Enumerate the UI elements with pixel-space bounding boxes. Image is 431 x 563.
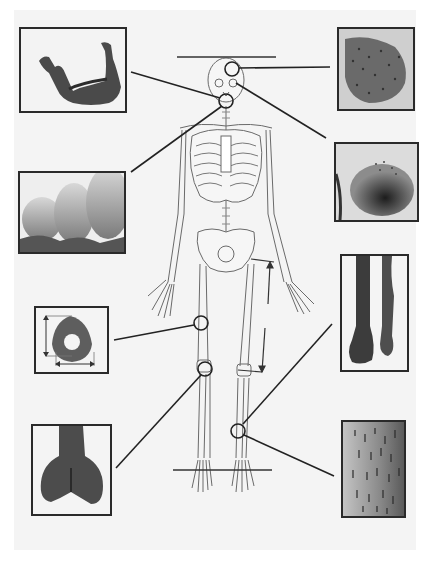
skeleton-diagram: [0, 0, 431, 563]
marker-femur-midshaft: [194, 316, 208, 330]
leader-mandible: [131, 72, 220, 98]
leader-long-bones: [243, 324, 332, 424]
skeleton: [148, 58, 314, 492]
femur-length-arrows: [238, 259, 274, 372]
leader-distal-femur: [116, 375, 201, 468]
leader-femur-cross-section: [114, 325, 194, 340]
leader-cranial-surface: [239, 67, 330, 68]
leader-orbit: [236, 83, 326, 138]
marker-knee: [198, 362, 212, 376]
